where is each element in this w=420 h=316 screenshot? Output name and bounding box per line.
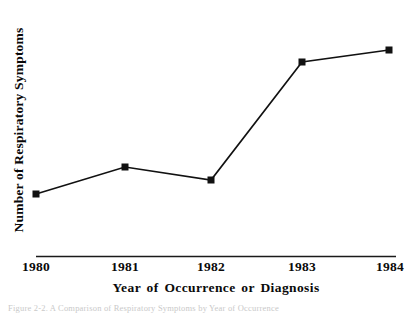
- data-point-marker: [208, 177, 215, 184]
- x-tick-label-1984: 1984: [360, 259, 420, 275]
- x-tick-label-1983: 1983: [272, 259, 332, 275]
- x-tick-label-1981: 1981: [95, 259, 155, 275]
- data-point-marker: [122, 164, 129, 171]
- data-line: [36, 50, 389, 194]
- chart-figure: Number of Respiratory Symptoms 1980 1981…: [0, 0, 420, 316]
- data-point-marker: [386, 47, 393, 54]
- figure-caption: Figure 2-2. A Comparison of Respiratory …: [8, 303, 279, 313]
- x-tick-label-1982: 1982: [181, 259, 241, 275]
- data-point-marker: [33, 191, 40, 198]
- x-tick-label-1980: 1980: [6, 259, 66, 275]
- x-axis-title: Year of Occurrence or Diagnosis: [36, 280, 396, 296]
- data-point-marker: [299, 59, 306, 66]
